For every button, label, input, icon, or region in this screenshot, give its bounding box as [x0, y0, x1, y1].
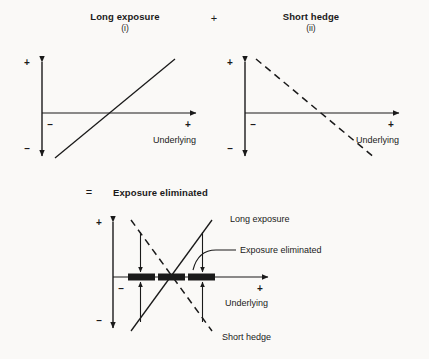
operator-equals: =: [86, 186, 92, 198]
panel-title-short-hedge: Short hedge: [283, 11, 340, 22]
x-axis-plus-label-short-hedge: +: [388, 119, 394, 130]
y-axis-plus-label-exposure-eliminated: +: [96, 217, 102, 228]
net-exposure-bar-center: [158, 274, 185, 281]
annotation-short-hedge: Short hedge: [222, 332, 271, 342]
y-axis-plus-label-short-hedge: +: [227, 57, 233, 68]
x-axis-plus-label-exposure-eliminated: +: [257, 283, 263, 294]
x-axis-minus-label-long-exposure: –: [47, 119, 53, 130]
x-axis-minus-label-short-hedge: –: [250, 119, 256, 130]
figure-background: [0, 0, 429, 359]
panel-subtitle-short-hedge: (ii): [306, 23, 316, 33]
y-axis-minus-label-long-exposure: –: [24, 143, 30, 154]
annotation-exposure-eliminated: Exposure eliminated: [240, 245, 322, 255]
x-axis-title-exposure-eliminated: Underlying: [225, 298, 268, 308]
net-exposure-bar-right: [188, 274, 215, 281]
annotation-long-exposure: Long exposure: [230, 214, 290, 224]
x-axis-minus-label-exposure-eliminated: –: [118, 283, 124, 294]
x-axis-title-long-exposure: Underlying: [153, 135, 196, 145]
x-axis-title-short-hedge: Underlying: [356, 135, 399, 145]
operator-plus: +: [211, 12, 217, 24]
y-axis-minus-label-exposure-eliminated: –: [96, 315, 102, 326]
net-exposure-bar-left: [128, 274, 155, 281]
panel-title-long-exposure: Long exposure: [90, 11, 159, 22]
panel-subtitle-long-exposure: (i): [121, 23, 129, 33]
hedging-payoff-diagram: Long exposure (i) + – – + Underlying + S…: [0, 0, 429, 359]
y-axis-plus-label-long-exposure: +: [24, 57, 30, 68]
x-axis-plus-label-long-exposure: +: [185, 119, 191, 130]
y-axis-minus-label-short-hedge: –: [227, 143, 233, 154]
panel-title-exposure-eliminated: Exposure eliminated: [113, 187, 208, 198]
